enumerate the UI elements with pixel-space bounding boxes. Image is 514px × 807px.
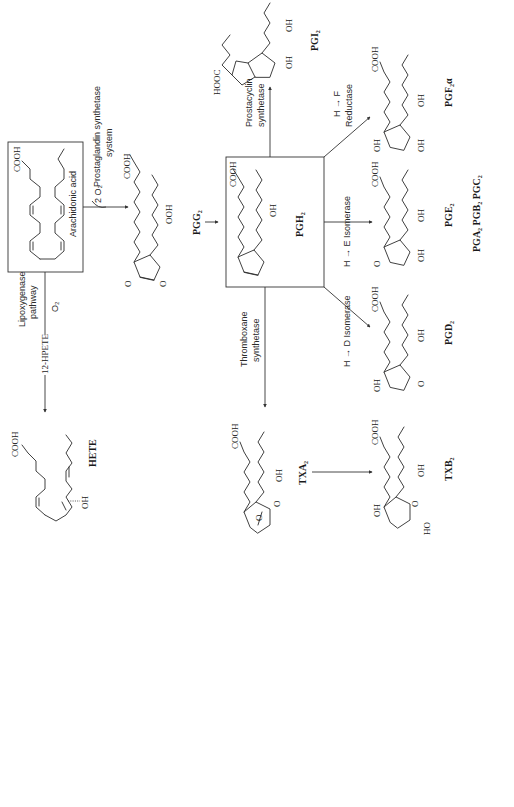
- prostacyclin-label-1: Prostacyclin: [244, 78, 254, 127]
- pgg2-o1-label: O: [123, 280, 133, 287]
- pgi2-oh2-label: OH: [284, 19, 294, 32]
- lipoxygenase-label-2: pathway: [28, 285, 38, 319]
- pgg2-ooh-label: OOH: [164, 204, 174, 224]
- thromboxane-label-1: Thromboxane: [239, 311, 249, 367]
- txb2-o-label: O: [410, 500, 420, 507]
- txa2-name: TXA₂: [297, 461, 308, 485]
- pgh2-oh-label: OH: [268, 204, 278, 217]
- pgd2-oh2-label: OH: [416, 329, 426, 342]
- arachidonic-acid-label: Arachidonic acid: [68, 171, 78, 237]
- h-to-e-label: H → E Isomerase: [342, 196, 352, 267]
- lipoxygenase-label-1: Lipoxygenase: [17, 271, 27, 327]
- pgh2-cooh-label: COOH: [228, 161, 238, 187]
- pgf2a-cooh-label: COOH: [370, 46, 380, 72]
- pgd2-structure: [380, 295, 410, 390]
- hete-structure: [22, 435, 80, 521]
- txa2-o1-label: O: [254, 514, 264, 521]
- pge2-cooh-label: COOH: [370, 161, 380, 187]
- txb2-ho-label: HO: [422, 522, 432, 535]
- pgf2a-name: PGF₂α: [443, 78, 454, 107]
- pgf2a-structure: [380, 55, 410, 150]
- txa2-oh-label: OH: [274, 469, 284, 482]
- pgh2-name: PGH₂: [294, 212, 305, 237]
- hete-name: HETE: [87, 439, 98, 467]
- txb2-oh1-label: OH: [372, 504, 382, 517]
- pge2-oh1-label: OH: [416, 249, 426, 262]
- pgd2-cooh-label: COOH: [370, 286, 380, 312]
- txb2-name: TXB₂: [443, 457, 454, 481]
- hete-cooh-label: COOH: [10, 431, 20, 457]
- hete-oh-label: OH: [80, 496, 90, 509]
- arachidonic-acid-structure: [22, 149, 64, 259]
- pgg2-o2-label: O: [158, 280, 168, 287]
- txb2-cooh-label: COOH: [370, 419, 380, 445]
- h-to-f-label-2: Reductase: [344, 84, 354, 127]
- pg-synthetase-label-1: Prostaglandin synthetase: [92, 86, 102, 187]
- prostacyclin-label-2: synthetase: [256, 83, 266, 127]
- pgf2a-oh1-label: OH: [372, 139, 382, 152]
- pge2-structure: [380, 170, 410, 265]
- h-to-d-label: H → D Isomerase: [342, 295, 352, 367]
- pgd2-o-label: O: [416, 380, 426, 387]
- pgi2-structure: [222, 3, 275, 85]
- h-to-f-label-1: H → F: [332, 90, 342, 117]
- pg-synthetase-label-2: system: [104, 128, 114, 157]
- thromboxane-label-2: synthetase: [251, 318, 261, 362]
- o2-label: O₂: [50, 301, 60, 312]
- pge2-derivatives: PGA₂ PGB₂ PGC₂: [471, 175, 482, 252]
- pgf2a-oh3-label: OH: [416, 94, 426, 107]
- pgf2a-oh2-label: OH: [416, 139, 426, 152]
- pgd2-name: PGD₂: [443, 321, 454, 345]
- arachidonic-cooh-label: COOH: [12, 146, 22, 172]
- txa2-o2-label: O: [272, 500, 282, 507]
- txa2-cooh-label: COOH: [230, 423, 240, 449]
- pgd2-oh1-label: OH: [372, 379, 382, 392]
- txb2-structure: [380, 427, 410, 528]
- pgg2-structure: [130, 155, 160, 280]
- pge2-name: PGE₂: [443, 203, 454, 227]
- pge2-oh2-label: OH: [416, 209, 426, 222]
- pgi2-hooc-label: HOOC: [212, 69, 222, 95]
- pgg2-name: PGG₂: [191, 210, 202, 235]
- prostaglandin-pathway-diagram: COOH Arachidonic acid 2 O₂ Prostaglandin…: [0, 0, 514, 807]
- pgg2-cooh-label: COOH: [122, 153, 132, 179]
- hpete-label: 12-HPETE: [40, 334, 50, 374]
- diagram-canvas: COOH Arachidonic acid 2 O₂ Prostaglandin…: [0, 0, 514, 807]
- pgi2-oh1-label: OH: [284, 56, 294, 69]
- pge2-o-label: O: [372, 260, 382, 267]
- txb2-oh2-label: OH: [416, 464, 426, 477]
- pgi2-name: PGI₂: [309, 30, 320, 51]
